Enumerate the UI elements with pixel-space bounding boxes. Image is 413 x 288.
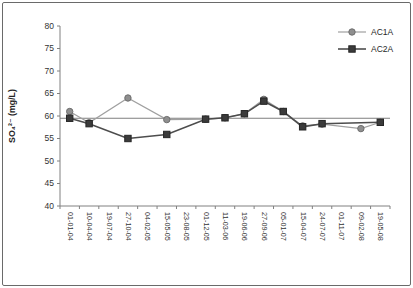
x-tick-label: 27-09-06 [260,212,269,241]
y-axis-title: SO₄²⁻ (mg/L) [7,89,17,143]
data-point-ac2a-square-marker [299,124,305,130]
x-tick-label: 01-11-07 [337,212,346,240]
legend-label-ac1a: AC1A [371,27,394,37]
y-tick-label: 60 [45,111,55,121]
x-tick-label: 19-06-06 [240,212,249,241]
data-point-ac2a-square-marker [222,115,228,121]
x-tick-label: 05-01-07 [279,212,288,241]
data-point-ac1a-circle-marker [125,95,131,101]
x-tick-label: 11-03-06 [221,212,230,240]
data-point-ac1a-circle-marker [164,116,170,122]
y-tick-label: 50 [45,156,55,166]
y-tick-label: 45 [45,178,55,188]
x-tick-label: 15-05-05 [163,212,172,241]
data-point-ac2a-square-marker [125,135,131,141]
x-tick-label: 09-02-08 [357,212,366,241]
y-tick-label: 75 [45,43,55,53]
data-point-ac2a-square-marker [67,115,73,121]
x-tick-label: 10-04-04 [85,212,94,241]
y-tick-label: 70 [45,66,55,76]
data-point-ac2a-square-marker [319,120,325,126]
data-point-ac2a-square-marker [349,46,355,52]
x-tick-label: 19-05-08 [376,212,385,241]
y-tick-label: 80 [45,21,55,31]
so4-line-chart: 40455055606570758001-01-0410-04-0419-07-… [0,0,413,288]
data-point-ac2a-square-marker [202,116,208,122]
data-point-ac1a-circle-marker [349,29,355,35]
x-tick-label: 24-07-07 [318,212,327,241]
data-point-ac1a-circle-marker [67,108,73,114]
data-point-ac2a-square-marker [86,120,92,126]
x-tick-label: 27-10-04 [124,212,133,241]
y-tick-label: 40 [45,201,55,211]
y-tick-label: 65 [45,88,55,98]
x-tick-label: 04-02-05 [143,212,152,241]
y-tick-label: 55 [45,133,55,143]
x-tick-label: 19-07-04 [105,212,114,241]
data-point-ac2a-square-marker [261,98,267,104]
x-tick-label: 23-08-05 [182,212,191,241]
data-point-ac2a-square-marker [164,131,170,137]
x-tick-label: 15-04-07 [299,212,308,241]
data-point-ac2a-square-marker [377,119,383,125]
x-tick-label: 01-01-04 [66,212,75,241]
x-tick-label: 01-12-05 [202,212,211,241]
legend-label-ac2a: AC2A [371,44,394,54]
data-point-ac2a-square-marker [280,108,286,114]
data-point-ac2a-square-marker [241,111,247,117]
data-point-ac1a-circle-marker [358,125,364,131]
